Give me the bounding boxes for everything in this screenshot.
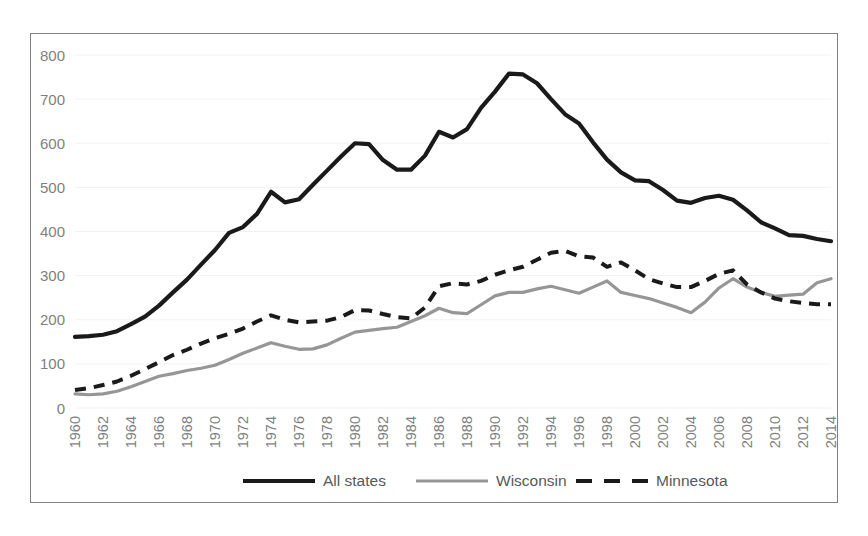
series-line-all-states xyxy=(75,74,831,337)
x-axis-tick-labels: 1960196219641966196819701972197419761978… xyxy=(67,416,837,448)
x-axis-tick-label: 1994 xyxy=(543,416,559,448)
y-axis-tick-label: 800 xyxy=(40,47,65,64)
y-axis-tick-label: 0 xyxy=(57,400,65,417)
x-axis-tick-label: 1972 xyxy=(235,416,251,448)
y-axis-tick-label: 300 xyxy=(40,267,65,284)
x-axis-tick-label: 2012 xyxy=(795,416,811,448)
x-axis-tick-label: 1986 xyxy=(431,416,447,448)
chart-legend: All statesWisconsinMinnesota xyxy=(243,472,728,489)
x-axis-tick-label: 1974 xyxy=(263,416,279,448)
y-axis-tick-label: 600 xyxy=(40,135,65,152)
data-series-group xyxy=(75,74,831,395)
x-axis-tick-label: 2008 xyxy=(739,416,755,448)
y-axis-tick-label: 500 xyxy=(40,179,65,196)
legend-label-minnesota: Minnesota xyxy=(656,472,728,489)
x-axis-tick-label: 1992 xyxy=(515,416,531,448)
legend-label-all-states: All states xyxy=(323,472,386,489)
x-axis-tick-label: 1984 xyxy=(403,416,419,448)
x-axis-tick-label: 1962 xyxy=(95,416,111,448)
x-axis-tick-label: 1960 xyxy=(67,416,83,448)
x-axis-tick-label: 2004 xyxy=(683,416,699,448)
y-axis-tick-label: 200 xyxy=(40,311,65,328)
y-axis-tick-label: 400 xyxy=(40,223,65,240)
y-axis-tick-label: 100 xyxy=(40,355,65,372)
gridlines-group xyxy=(75,55,831,408)
x-axis-tick-label: 1990 xyxy=(487,416,503,448)
x-axis-tick-label: 1988 xyxy=(459,416,475,448)
x-axis-tick-label: 2006 xyxy=(711,416,727,448)
x-axis-tick-label: 1976 xyxy=(291,416,307,448)
x-axis-tick-label: 2014 xyxy=(823,416,837,448)
x-axis-tick-label: 1970 xyxy=(207,416,223,448)
x-axis-tick-label: 1964 xyxy=(123,416,139,448)
series-line-wisconsin xyxy=(75,279,831,395)
x-axis-tick-label: 1966 xyxy=(151,416,167,448)
y-axis-tick-labels: 0100200300400500600700800 xyxy=(40,47,65,417)
chart-border: 0100200300400500600700800 19601962196419… xyxy=(30,33,838,503)
x-axis-tick-label: 1998 xyxy=(599,416,615,448)
y-axis-tick-label: 700 xyxy=(40,91,65,108)
x-axis-tick-label: 1978 xyxy=(319,416,335,448)
chart-figure: 0100200300400500600700800 19601962196419… xyxy=(0,0,868,536)
x-axis-tick-label: 2010 xyxy=(767,416,783,448)
x-axis-tick-label: 2002 xyxy=(655,416,671,448)
x-axis-tick-label: 2000 xyxy=(627,416,643,448)
x-axis-tick-label: 1996 xyxy=(571,416,587,448)
x-axis-tick-label: 1980 xyxy=(347,416,363,448)
x-axis-tick-label: 1968 xyxy=(179,416,195,448)
x-axis-tick-label: 1982 xyxy=(375,416,391,448)
legend-label-wisconsin: Wisconsin xyxy=(496,472,567,489)
line-chart: 0100200300400500600700800 19601962196419… xyxy=(31,34,837,502)
